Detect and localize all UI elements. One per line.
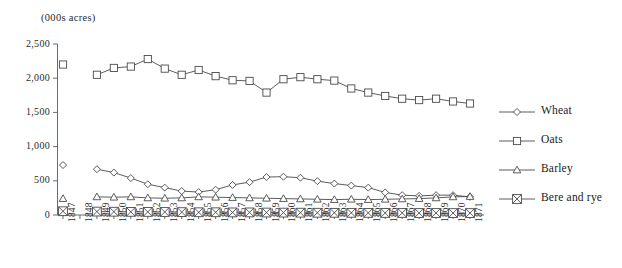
diamond-marker — [497, 104, 537, 120]
legend-label: Bere and rye — [541, 191, 602, 203]
series-barley — [59, 193, 474, 203]
y-tick-label: 1,500 — [10, 106, 50, 117]
x-tick-label: 1869 — [440, 202, 450, 222]
x-tick-label: 1856 — [220, 202, 230, 222]
y-tick-label: 500 — [10, 174, 50, 185]
square-marker — [497, 133, 537, 149]
x-tick-label: 1868 — [423, 202, 433, 222]
x-tick-label: 1865 — [372, 202, 382, 222]
chart-legend: WheatOatsBarleyBere and rye — [497, 104, 617, 220]
x-tick-label: 1854 — [186, 202, 196, 222]
x-tick-label: 1852 — [152, 202, 162, 222]
x-tick-label: 1849 — [101, 202, 111, 222]
y-tick-label: 2,500 — [10, 38, 50, 49]
x-tick-label: 1862 — [321, 202, 331, 222]
x-tick-label: 1859 — [271, 202, 281, 222]
x-tick-label: 1866 — [389, 202, 399, 222]
x-tick-label: 1853 — [169, 202, 179, 222]
x-tick-label: 1864 — [355, 202, 365, 222]
x-tick-label: 1857 — [237, 202, 247, 222]
x-tick-label: 1848 — [84, 202, 94, 222]
x-tick-label: 1858 — [254, 202, 264, 222]
x-tick-label: 1871 — [474, 202, 484, 222]
y-tick-label: 1,000 — [10, 140, 50, 151]
triangle-marker — [497, 162, 537, 178]
agriculture-acreage-line-chart: (000s acres) 05001,0001,5002,0002,500 18… — [0, 0, 622, 268]
y-tick-label: 0 — [10, 209, 50, 220]
legend-label: Barley — [541, 162, 573, 174]
series-oats — [59, 55, 473, 107]
legend-item-oats[interactable]: Oats — [497, 133, 617, 162]
x-tick-label: 1870 — [457, 202, 467, 222]
legend-item-bere-and-rye[interactable]: Bere and rye — [497, 191, 617, 220]
legend-label: Wheat — [541, 104, 572, 116]
legend-label: Oats — [541, 133, 563, 145]
x-tick-label: 1863 — [338, 202, 348, 222]
crossed-square-marker — [497, 191, 537, 207]
legend-item-wheat[interactable]: Wheat — [497, 104, 617, 133]
x-tick-label: 1867 — [406, 202, 416, 222]
x-tick-label: 1850 — [118, 202, 128, 222]
x-tick-label: 1851 — [135, 202, 145, 222]
x-tick-label: 1847 — [67, 202, 77, 222]
legend-item-barley[interactable]: Barley — [497, 162, 617, 191]
x-tick-label: 1860 — [287, 202, 297, 222]
x-tick-label: 1861 — [304, 202, 314, 222]
y-tick-label: 2,000 — [10, 72, 50, 83]
x-tick-label: 1855 — [203, 202, 213, 222]
